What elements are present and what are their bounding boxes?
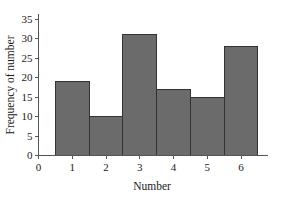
chart-figure: 05101520253035 0123456 Number Frequency … [0, 0, 286, 198]
x-tick-label-2: 2 [103, 161, 109, 173]
x-tick-label-6: 6 [238, 161, 244, 173]
bar-5 [190, 97, 224, 156]
bar-1 [55, 81, 89, 155]
x-tick-label-3: 3 [137, 161, 143, 173]
bar-4 [157, 89, 191, 155]
bar-6 [224, 46, 258, 155]
x-axis-title: Number [133, 180, 171, 192]
bar-chart-svg: 05101520253035 0123456 Number Frequency … [0, 0, 286, 198]
y-tick-label-5: 5 [27, 130, 33, 142]
y-tick-label-10: 10 [22, 110, 34, 122]
y-tick-label-25: 25 [22, 52, 34, 64]
x-tick-label-0: 0 [36, 161, 42, 173]
y-tick-label-30: 30 [22, 32, 34, 44]
y-axis-title: Frequency of number [4, 35, 17, 134]
x-tick-label-5: 5 [205, 161, 211, 173]
x-tick-label-4: 4 [171, 161, 177, 173]
y-tick-label-0: 0 [27, 149, 33, 161]
y-tick-label-15: 15 [22, 91, 34, 103]
y-tick-label-35: 35 [22, 13, 34, 25]
y-tick-label-20: 20 [22, 71, 34, 83]
x-tick-label-1: 1 [70, 161, 76, 173]
bar-2 [89, 117, 123, 156]
bar-3 [123, 35, 157, 156]
